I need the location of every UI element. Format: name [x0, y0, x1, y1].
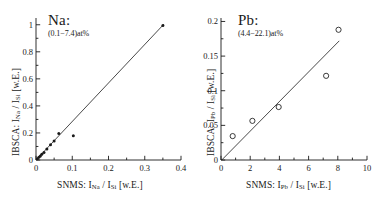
x-axis-title-prefix-pb: SNMS:: [246, 180, 275, 190]
data-point: [53, 140, 56, 143]
x-tick-label: 0.4: [176, 164, 187, 173]
annotation-species-na: Na:: [48, 13, 89, 28]
data-point: [57, 132, 60, 135]
y-tick-label: 0: [214, 156, 218, 165]
y-axis-title-num-sub-pb: Pb: [209, 112, 216, 119]
x-axis-title-slash-pb: /: [291, 180, 294, 190]
annotation-na: Na: (0.1−7.4)at%: [48, 13, 89, 39]
y-axis-title-slash-pb: /: [206, 107, 216, 110]
y-axis-title-slash-na: /: [11, 106, 21, 109]
y-tick-label: 0.05: [203, 121, 218, 130]
x-axis-title-num-sub-pb: Pb: [281, 183, 288, 190]
fit-line: [222, 41, 340, 160]
x-tick-label: 0: [219, 164, 223, 173]
data-point: [49, 143, 52, 146]
chart-panel-pb: Pb: (4.4−22.1)at% IBSCA: IPb / ISi [w.E.…: [190, 0, 381, 203]
y-axis-title-den-sub-pb: Si: [209, 95, 216, 101]
x-axis-title-den-sub-pb: Si: [299, 183, 305, 190]
x-axis-title-unit-pb: [w.E.]: [307, 180, 331, 190]
y-tick-label: 0.2: [22, 128, 33, 137]
x-tick-label: 0.1: [67, 164, 78, 173]
y-tick-label: 0.15: [203, 52, 218, 61]
y-axis-title-unit-na: [w.E.]: [11, 68, 21, 92]
y-tick-label: 1: [29, 20, 33, 29]
y-axis-title-prefix-na: IBSCA:: [11, 125, 21, 156]
y-axis-title-den-pb: I: [206, 101, 216, 104]
x-tick-label: 6: [306, 164, 310, 173]
y-axis-title-pb: IBSCA: IPb / ISi [w.E.]: [206, 69, 216, 156]
data-point: [72, 134, 75, 137]
data-point: [250, 118, 255, 123]
x-axis-title-prefix-na: SNMS:: [57, 180, 86, 190]
x-tick-label: 0.3: [139, 164, 150, 173]
y-axis-title-num-sub-na: Na: [14, 111, 21, 119]
data-points: [230, 27, 341, 139]
x-tick-label: 8: [336, 164, 340, 173]
figure-root: Na: (0.1−7.4)at% IBSCA: INa / ISi [w.E.]…: [0, 0, 381, 203]
x-tick-label: 0: [34, 164, 38, 173]
y-tick-label: 0.1: [207, 86, 218, 95]
y-tick-label: 0: [29, 156, 33, 165]
fit-line: [36, 24, 164, 160]
x-axis-title-den-sub-na: Si: [111, 183, 117, 190]
data-point: [161, 24, 164, 27]
x-axis-title-unit-na: [w.E.]: [119, 180, 143, 190]
data-point: [230, 134, 235, 139]
x-axis-title-slash-na: /: [102, 180, 105, 190]
x-axis-title-num-sub-na: Na: [92, 183, 100, 190]
x-axis-title-pb: SNMS: IPb / ISi [w.E.]: [246, 180, 331, 190]
x-tick-label: 4: [277, 164, 281, 173]
y-tick-label: 0.4: [22, 101, 33, 110]
x-axis-title-na: SNMS: INa / ISi [w.E.]: [57, 180, 143, 190]
annotation-range-na: (0.1−7.4)at%: [48, 28, 89, 39]
y-axis-title-den-na: I: [11, 100, 21, 103]
x-tick-label: 2: [248, 164, 252, 173]
annotation-species-pb: Pb:: [238, 13, 283, 28]
annotation-range-pb: (4.4−22.1)at%: [238, 28, 283, 39]
data-point: [45, 147, 48, 150]
x-tick-label: 10: [363, 164, 372, 173]
data-point: [324, 73, 329, 78]
y-axis-title-den-sub-na: Si: [14, 94, 21, 100]
annotation-pb: Pb: (4.4−22.1)at%: [238, 13, 283, 39]
data-point: [42, 151, 45, 154]
y-tick-label: 0.2: [207, 17, 218, 26]
data-point: [276, 104, 281, 109]
y-tick-label: 0.8: [22, 47, 33, 56]
data-point: [336, 27, 341, 32]
x-tick-label: 0.2: [103, 164, 114, 173]
y-tick-label: 0.6: [22, 74, 33, 83]
y-axis-title-num-na: I: [11, 119, 21, 122]
y-axis-title-na: IBSCA: INa / ISi [w.E.]: [11, 68, 21, 156]
chart-panel-na: Na: (0.1−7.4)at% IBSCA: INa / ISi [w.E.]…: [0, 0, 191, 203]
